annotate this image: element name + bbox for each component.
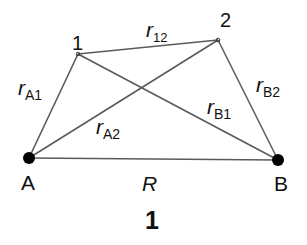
edge-A-B [29,158,278,160]
rA2-sub: A2 [103,126,120,142]
node-A-dot [23,152,35,164]
diagram-canvas: 1 2 A B r12 rA1 rA2 rB1 rB2 R 1 [0,0,307,245]
edge-label-R: R [142,172,157,195]
node-1-label: 1 [72,32,83,54]
node-B-label: B [274,172,288,195]
edge-label-r12: r12 [146,18,167,45]
edge-1-2 [78,40,218,54]
edge-B-1 [78,54,278,160]
rB2-sub: B2 [263,84,280,100]
rB1-sub: B1 [214,106,231,122]
figure-caption: 1 [145,206,159,234]
edge-label-rA2: rA2 [96,115,120,142]
rA1-sub: A1 [25,87,42,103]
node-2-label: 2 [220,9,231,31]
node-B-dot [272,154,284,166]
edge-B-2 [218,40,278,160]
edge-label-rB2: rB2 [256,73,280,100]
edge-label-rB1: rB1 [207,95,231,122]
node-A-label: A [21,171,35,194]
r12-sub: 12 [153,30,167,45]
edge-label-rA1: rA1 [18,76,42,103]
edges [29,40,278,160]
